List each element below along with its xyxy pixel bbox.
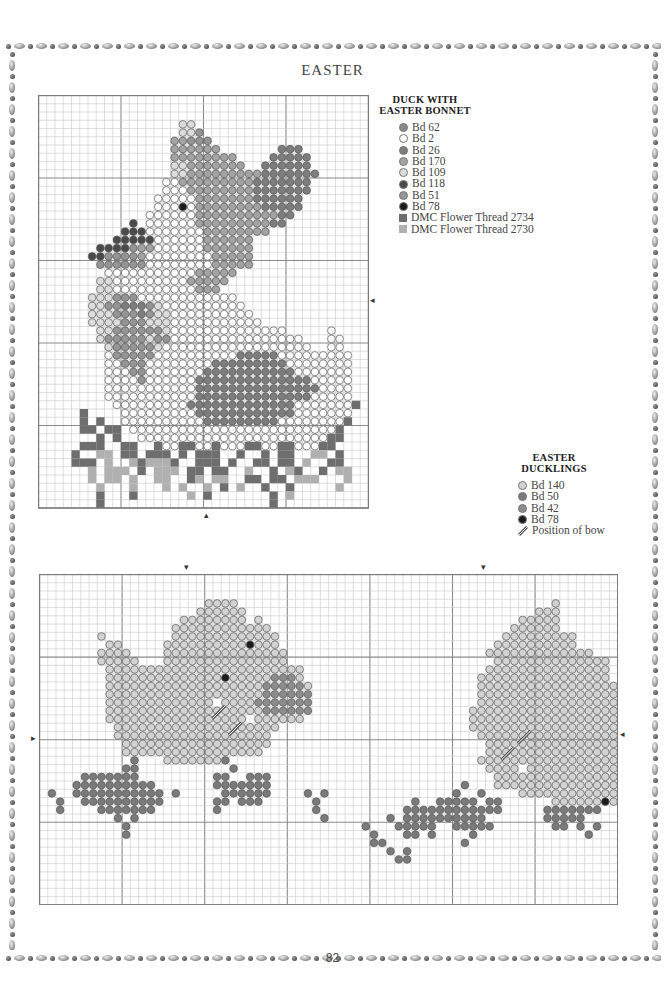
- round-bead-icon: [653, 316, 658, 321]
- round-bead-icon: [653, 184, 658, 189]
- round-bead-icon: [653, 822, 658, 827]
- oval-bead-icon: [58, 43, 69, 49]
- round-bead-icon: [10, 734, 15, 739]
- round-bead-icon: [10, 690, 15, 695]
- oval-bead-icon: [542, 43, 553, 49]
- round-bead-icon: [204, 44, 209, 49]
- legend-label: DMC Flower Thread 2734: [411, 212, 534, 223]
- round-bead-icon: [248, 44, 253, 49]
- round-bead-icon: [512, 44, 517, 49]
- round-bead-icon: [424, 44, 429, 49]
- oval-bead-icon: [36, 43, 47, 49]
- oval-bead-icon: [652, 698, 658, 709]
- round-bead-icon: [10, 932, 15, 937]
- oval-bead-icon: [322, 43, 333, 49]
- oval-bead-icon: [652, 258, 658, 269]
- round-bead-icon: [653, 888, 658, 893]
- round-bead-icon: [653, 646, 658, 651]
- oval-bead-icon: [9, 390, 15, 401]
- oval-bead-icon: [9, 654, 15, 665]
- oval-bead-icon: [9, 896, 15, 907]
- oval-bead-icon: [652, 808, 658, 819]
- oval-bead-icon: [652, 434, 658, 445]
- legend-item: Position of bow: [518, 525, 644, 536]
- legend-item: DMC Flower Thread 2730: [399, 224, 555, 235]
- round-bead-icon: [10, 382, 15, 387]
- oval-bead-icon: [652, 632, 658, 643]
- oval-bead-icon: [9, 346, 15, 357]
- legend-item: Bd 2: [399, 133, 555, 144]
- bead-swatch-icon: [518, 515, 527, 524]
- round-bead-icon: [358, 44, 363, 49]
- oval-bead-icon: [9, 478, 15, 489]
- round-bead-icon: [10, 294, 15, 299]
- oval-bead-icon: [652, 456, 658, 467]
- round-bead-icon: [446, 44, 451, 49]
- ducklings-chart-grid: [39, 574, 618, 905]
- round-bead-icon: [72, 44, 77, 49]
- oval-bead-icon: [9, 808, 15, 819]
- beaded-border-right: [649, 50, 661, 950]
- round-bead-icon: [10, 822, 15, 827]
- round-bead-icon: [10, 866, 15, 871]
- round-bead-icon: [653, 118, 658, 123]
- round-bead-icon: [10, 250, 15, 255]
- oval-bead-icon: [652, 412, 658, 423]
- round-bead-icon: [10, 360, 15, 365]
- oval-bead-icon: [652, 544, 658, 555]
- round-bead-icon: [653, 778, 658, 783]
- round-bead-icon: [10, 514, 15, 519]
- oval-bead-icon: [652, 720, 658, 731]
- round-bead-icon: [490, 44, 495, 49]
- oval-bead-icon: [256, 43, 267, 49]
- oval-bead-icon: [9, 104, 15, 115]
- oval-bead-icon: [608, 43, 619, 49]
- oval-bead-icon: [652, 280, 658, 291]
- round-bead-icon: [10, 558, 15, 563]
- round-bead-icon: [653, 338, 658, 343]
- oval-bead-icon: [168, 43, 179, 49]
- beaded-border-top: [4, 40, 661, 52]
- oval-bead-icon: [366, 43, 377, 49]
- oval-bead-icon: [652, 874, 658, 885]
- round-bead-icon: [10, 316, 15, 321]
- round-bead-icon: [160, 44, 165, 49]
- legend-label: Position of bow: [532, 525, 605, 536]
- round-bead-icon: [653, 580, 658, 585]
- oval-bead-icon: [9, 830, 15, 841]
- round-bead-icon: [10, 96, 15, 101]
- oval-bead-icon: [652, 764, 658, 775]
- round-bead-icon: [653, 624, 658, 629]
- round-bead-icon: [10, 140, 15, 145]
- oval-bead-icon: [9, 500, 15, 511]
- oval-bead-icon: [498, 43, 509, 49]
- round-bead-icon: [10, 712, 15, 717]
- round-bead-icon: [653, 140, 658, 145]
- oval-bead-icon: [300, 43, 311, 49]
- round-bead-icon: [468, 44, 473, 49]
- round-bead-icon: [653, 470, 658, 475]
- oval-bead-icon: [9, 192, 15, 203]
- oval-bead-icon: [9, 434, 15, 445]
- round-bead-icon: [653, 404, 658, 409]
- thread-swatch-icon: [399, 214, 407, 222]
- oval-bead-icon: [652, 192, 658, 203]
- oval-bead-icon: [9, 742, 15, 753]
- round-bead-icon: [622, 44, 627, 49]
- round-bead-icon: [653, 382, 658, 387]
- oval-bead-icon: [124, 43, 135, 49]
- oval-bead-icon: [212, 43, 223, 49]
- oval-bead-icon: [652, 104, 658, 115]
- oval-bead-icon: [9, 940, 15, 950]
- oval-bead-icon: [586, 43, 597, 49]
- duck-legend-title: DUCK WITH EASTER BONNET: [375, 94, 475, 116]
- round-bead-icon: [653, 250, 658, 255]
- round-bead-icon: [116, 44, 121, 49]
- oval-bead-icon: [410, 43, 421, 49]
- oval-bead-icon: [454, 43, 465, 49]
- oval-bead-icon: [630, 43, 641, 49]
- legend-label: DMC Flower Thread 2730: [411, 224, 534, 235]
- ducklings-center-arrow-top-1: ▾: [184, 563, 189, 572]
- legend-item: Bd 50: [518, 491, 644, 502]
- ducklings-center-arrow-right: ◂: [620, 730, 625, 739]
